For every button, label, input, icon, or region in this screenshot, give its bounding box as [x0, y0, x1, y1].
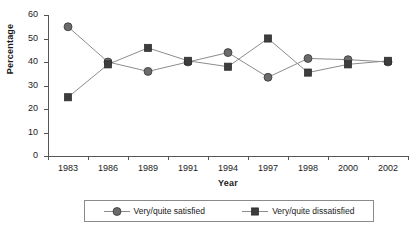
data-point-circle: [304, 54, 312, 62]
y-tick-label: 30: [28, 80, 38, 90]
data-point-square: [184, 57, 191, 64]
x-tick: [128, 156, 129, 160]
x-tick-label: 1997: [248, 163, 288, 173]
x-tick-label: 2002: [368, 163, 408, 173]
data-point-square: [104, 61, 111, 68]
data-point-square: [264, 35, 271, 42]
data-point-circle: [144, 67, 152, 75]
circle-marker-icon: [104, 206, 130, 217]
x-tick-label: 1991: [168, 163, 208, 173]
x-tick-label: 1998: [288, 163, 328, 173]
data-point-square: [304, 69, 311, 76]
x-tick-label: 1994: [208, 163, 248, 173]
data-point-square: [384, 57, 391, 64]
data-point-square: [224, 63, 231, 70]
data-point-circle: [264, 73, 272, 81]
y-tick-label: 60: [28, 9, 38, 19]
data-point-square: [344, 61, 351, 68]
x-axis-line: [48, 156, 409, 157]
legend-label: Very/quite satisfied: [134, 206, 205, 216]
line-chart: Percentage 0102030405060 198319861989199…: [0, 0, 419, 237]
x-tick-label: 1983: [48, 163, 88, 173]
x-tick: [248, 156, 249, 160]
x-tick-label: 1989: [128, 163, 168, 173]
y-tick-label: 40: [28, 56, 38, 66]
legend-label: Very/quite dissatisfied: [272, 206, 354, 216]
x-tick: [328, 156, 329, 160]
x-tick: [368, 156, 369, 160]
legend-entry[interactable]: Very/quite satisfied: [104, 206, 205, 217]
chart-legend: Very/quite satisfiedVery/quite dissatisf…: [84, 200, 374, 222]
y-tick-label: 10: [28, 127, 38, 137]
y-tick-label: 20: [28, 103, 38, 113]
x-axis-title: Year: [48, 178, 408, 188]
x-tick: [88, 156, 89, 160]
square-marker-icon: [242, 206, 268, 217]
data-point-square: [64, 94, 71, 101]
data-point-circle: [224, 49, 232, 57]
y-tick-label: 0: [33, 150, 38, 160]
y-tick-label: 50: [28, 33, 38, 43]
x-tick: [408, 156, 409, 160]
x-tick: [48, 156, 49, 160]
y-axis-title: Percentage: [5, 4, 15, 94]
plot-area: 0102030405060 19831986198919911994199719…: [48, 15, 408, 156]
x-tick-label: 1986: [88, 163, 128, 173]
series-plot: [48, 15, 408, 156]
x-tick: [288, 156, 289, 160]
data-point-circle: [64, 23, 72, 31]
x-tick-label: 2000: [328, 163, 368, 173]
x-tick: [208, 156, 209, 160]
data-point-square: [144, 44, 151, 51]
x-tick: [168, 156, 169, 160]
legend-entry[interactable]: Very/quite dissatisfied: [242, 206, 354, 217]
